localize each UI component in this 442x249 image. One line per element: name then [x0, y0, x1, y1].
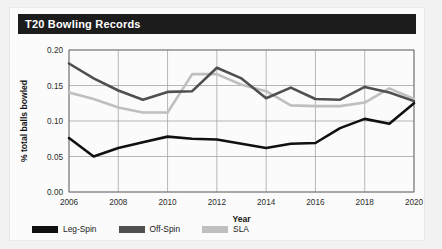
- legend-label: Leg-Spin: [63, 224, 97, 234]
- x-axis-tick-label: 2016: [306, 198, 325, 207]
- legend-swatch-icon: [32, 226, 58, 233]
- y-axis-tick-label: 0.05: [47, 153, 63, 162]
- x-axis-tick-label: 2014: [257, 198, 276, 207]
- x-axis-tick-label: 2020: [405, 198, 424, 207]
- y-axis-tick-label: 0.10: [47, 117, 63, 126]
- chart-plot-area: 0.000.050.100.150.2020062008201020122014…: [10, 34, 424, 240]
- screenshot-root: T20 Bowling Records 0.000.050.100.150.20…: [0, 0, 442, 249]
- legend-item-leg-spin[interactable]: Leg-Spin: [32, 224, 97, 234]
- x-axis-tick-label: 2006: [60, 198, 79, 207]
- chart-card: T20 Bowling Records 0.000.050.100.150.20…: [10, 8, 424, 240]
- legend-label: SLA: [233, 224, 249, 234]
- y-axis-title: % total balls bowled: [19, 80, 29, 162]
- x-axis-tick-label: 2008: [109, 198, 128, 207]
- legend-label: Off-Spin: [150, 224, 181, 234]
- x-axis-tick-label: 2018: [356, 198, 375, 207]
- x-axis-tick-label: 2012: [208, 198, 227, 207]
- x-axis-tick-label: 2010: [158, 198, 177, 207]
- card-title-bar: T20 Bowling Records: [18, 14, 416, 34]
- line-chart: 0.000.050.100.150.2020062008201020122014…: [10, 34, 424, 240]
- legend-swatch-icon: [202, 226, 228, 233]
- page-title: T20 Bowling Records: [18, 18, 141, 30]
- legend-swatch-icon: [119, 226, 145, 233]
- y-axis-tick-label: 0.20: [47, 46, 63, 55]
- y-axis-tick-label: 0.00: [47, 188, 63, 197]
- legend-item-sla[interactable]: SLA: [202, 224, 249, 234]
- chart-legend: Leg-SpinOff-SpinSLA: [32, 222, 249, 236]
- y-axis-tick-label: 0.15: [47, 82, 63, 91]
- legend-item-off-spin[interactable]: Off-Spin: [119, 224, 181, 234]
